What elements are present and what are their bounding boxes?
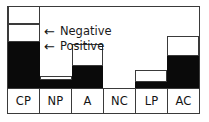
bar-ac-segment-negative <box>167 36 199 56</box>
plot-frame: CP NP A NC LP AC <box>7 6 200 114</box>
bar-cp-segment-negative <box>8 24 40 42</box>
bar-cp[interactable] <box>8 7 40 88</box>
bar-cp-segment-extra <box>8 6 40 24</box>
category-label-a: A <box>72 89 104 113</box>
annotation-negative-label: Negative <box>60 24 112 38</box>
bar-chart-figure: CP NP A NC LP AC ← Negative ← Positive <box>0 0 209 122</box>
category-label-cp: CP <box>8 89 40 113</box>
category-label-ac: AC <box>168 89 199 113</box>
category-label-nc: NC <box>104 89 136 113</box>
bar-cp-segment-positive <box>8 42 40 88</box>
category-label-np: NP <box>40 89 72 113</box>
left-arrow-icon: ← <box>44 25 55 38</box>
category-label-lp: LP <box>136 89 168 113</box>
bar-ac[interactable] <box>167 7 199 88</box>
left-arrow-icon: ← <box>44 40 55 53</box>
annotation-positive: ← Positive <box>44 39 104 53</box>
bar-a-segment-positive <box>72 66 104 88</box>
bar-ac-segment-positive <box>167 56 199 88</box>
bar-np-segment-positive <box>40 80 72 88</box>
bar-lp-segment-negative <box>135 70 167 82</box>
category-label-strip: CP NP A NC LP AC <box>8 88 199 113</box>
annotation-positive-label: Positive <box>60 39 104 53</box>
bar-nc[interactable] <box>103 7 135 88</box>
bar-lp[interactable] <box>135 7 167 88</box>
annotation-negative: ← Negative <box>44 24 112 38</box>
